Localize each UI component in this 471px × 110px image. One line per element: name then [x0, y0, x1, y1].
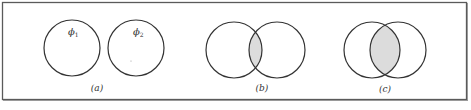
panel-b-label: (b) — [256, 83, 269, 93]
panel-b: (b) — [206, 22, 305, 93]
panel-a-label: (a) — [91, 83, 104, 93]
phi2-label: ϕ2 — [133, 26, 144, 38]
panel-a: ϕ1 ϕ2 (a) — [44, 20, 164, 93]
panel-c-label: (c) — [379, 84, 392, 94]
panel-c: (c) — [344, 22, 426, 94]
venn-figure: ϕ1 ϕ2 (a) (b) (c) — [0, 0, 471, 110]
phi1-label: ϕ1 — [68, 26, 79, 38]
stray-mark — [130, 60, 131, 61]
